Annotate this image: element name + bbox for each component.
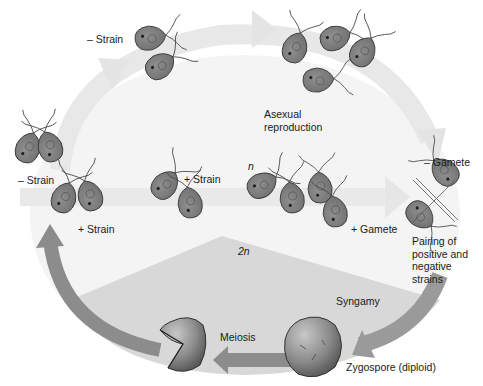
diagram-canvas xyxy=(0,0,483,386)
label-pairing: Pairing of positive and negative strains xyxy=(412,235,468,285)
label-minus-strain-left: – Strain xyxy=(18,174,54,187)
label-plus-strain-left: + Strain xyxy=(78,223,114,236)
zygospore-icon xyxy=(285,317,342,377)
label-meiosis: Meiosis xyxy=(220,331,256,344)
label-plus-gamete: + Gamete xyxy=(351,223,397,236)
label-asexual-reproduction: Asexual reproduction xyxy=(264,108,322,133)
label-minus-gamete: – Gamete xyxy=(424,156,470,169)
label-haploid-n: n xyxy=(248,160,254,173)
life-cycle-diagram: – Strain Asexual reproduction – Strain +… xyxy=(0,0,483,386)
label-zygospore: Zygospore (diploid) xyxy=(346,361,436,374)
label-minus-strain-top: – Strain xyxy=(87,33,123,46)
label-syngamy: Syngamy xyxy=(336,295,380,308)
label-plus-strain-mid: + Strain xyxy=(184,173,220,186)
label-diploid-2n: 2n xyxy=(238,245,250,258)
